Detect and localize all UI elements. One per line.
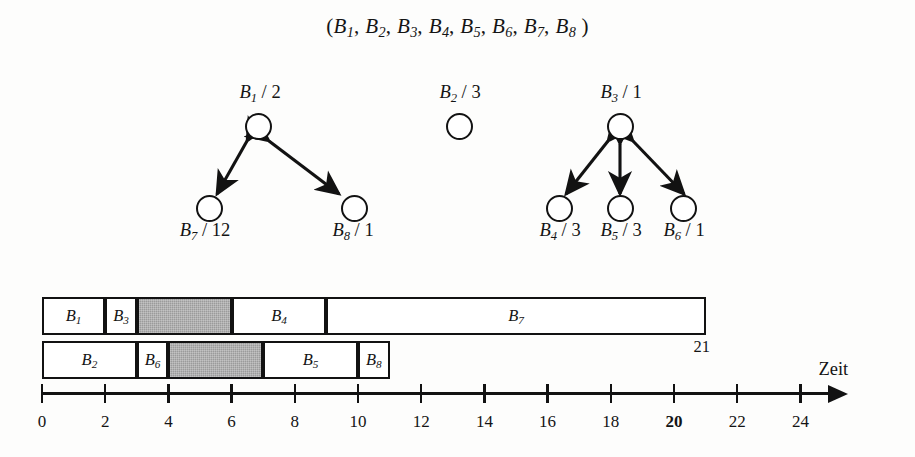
axis-tick-24 (799, 384, 802, 403)
makespan-label: 21 (694, 337, 711, 357)
axis-tick-label-2: 2 (85, 412, 125, 432)
gantt-block-b7[interactable]: B7 (326, 297, 705, 335)
axis-tick-label-20: 20 (654, 412, 694, 432)
bar-label: B2 (82, 350, 98, 370)
bar-label: B4 (271, 306, 287, 326)
bar-label: B6 (145, 350, 161, 370)
gantt-block-b8[interactable]: B8 (358, 341, 390, 379)
time-axis-title: Zeit (818, 359, 848, 380)
gantt-block-b1[interactable]: B1 (42, 297, 105, 335)
axis-tick-6 (230, 384, 233, 403)
gantt-block-b4[interactable]: B4 (232, 297, 327, 335)
axis-tick-label-4: 4 (148, 412, 188, 432)
bar-label: B1 (66, 306, 82, 326)
bar-label: B3 (113, 306, 129, 326)
axis-tick-label-12: 12 (401, 412, 441, 432)
axis-tick-label-22: 22 (717, 412, 757, 432)
figure-canvas: (B1, B2, B3, B4, B5, B6, B7, B8 ) B1 / 2 (0, 0, 915, 457)
axis-tick-label-14: 14 (464, 412, 504, 432)
axis-tick-0 (41, 384, 44, 403)
axis-tick-14 (483, 384, 486, 403)
time-axis-arrowhead (828, 385, 848, 403)
gantt-chart: B1B3B4B7B2B6B5B821024681012141618202224Z… (0, 0, 915, 457)
bar-label: B7 (508, 306, 524, 326)
bar-label: B8 (366, 350, 382, 370)
axis-tick-16 (546, 384, 549, 403)
axis-tick-18 (610, 384, 613, 403)
axis-tick-label-24: 24 (780, 412, 820, 432)
gantt-idle-block[interactable] (168, 341, 263, 379)
axis-tick-label-0: 0 (22, 412, 62, 432)
axis-tick-label-18: 18 (591, 412, 631, 432)
axis-tick-label-8: 8 (275, 412, 315, 432)
bar-label: B5 (303, 350, 319, 370)
gantt-idle-block[interactable] (137, 297, 232, 335)
axis-tick-8 (294, 384, 297, 403)
time-axis-line (42, 392, 830, 395)
axis-tick-22 (736, 384, 739, 403)
axis-tick-12 (420, 384, 423, 403)
gantt-block-b5[interactable]: B5 (263, 341, 358, 379)
axis-tick-20 (673, 384, 676, 403)
axis-tick-2 (104, 384, 107, 403)
axis-tick-label-6: 6 (212, 412, 252, 432)
axis-tick-label-16: 16 (528, 412, 568, 432)
axis-tick-10 (357, 384, 360, 403)
gantt-block-b6[interactable]: B6 (137, 341, 169, 379)
axis-tick-label-10: 10 (338, 412, 378, 432)
gantt-block-b2[interactable]: B2 (42, 341, 137, 379)
gantt-block-b3[interactable]: B3 (105, 297, 137, 335)
axis-tick-4 (167, 384, 170, 403)
